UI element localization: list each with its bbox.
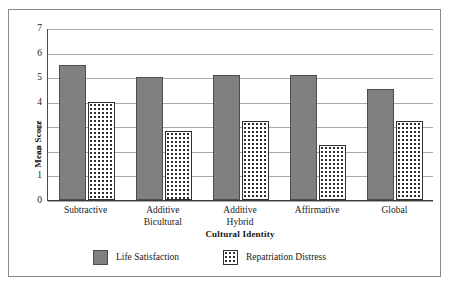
y-tick-label: 7 [37, 24, 42, 34]
chart-legend: Life SatisfactionRepatriation Distress [47, 248, 433, 268]
bar-repatriation-distress[interactable] [319, 145, 346, 200]
legend-label: Repatriation Distress [246, 252, 326, 262]
legend-label: Life Satisfaction [116, 252, 179, 262]
x-tick-label-line: Hybrid [201, 217, 278, 229]
x-tick-label-line: Bicultural [124, 217, 201, 229]
x-axis-title: Cultural Identity [47, 229, 433, 239]
x-tick-label-line: Global [356, 205, 433, 217]
legend-item[interactable]: Repatriation Distress [223, 248, 326, 266]
bars-layer [48, 29, 433, 200]
bar-life-satisfaction[interactable] [59, 65, 86, 200]
bar-group [202, 29, 279, 200]
x-tick-label: Subtractive [47, 205, 124, 217]
x-tick-label: Affirmative [279, 205, 356, 217]
x-tick-label: AdditiveBicultural [124, 205, 201, 228]
bar-repatriation-distress[interactable] [88, 102, 115, 200]
bar-repatriation-distress[interactable] [396, 121, 423, 200]
bar-group [125, 29, 202, 200]
bar-repatriation-distress[interactable] [242, 121, 269, 200]
y-tick-label: 4 [37, 98, 42, 108]
x-tick-label-line: Subtractive [47, 205, 124, 217]
figure-canvas: Mean Score 01234567 SubtractiveAdditiveB… [0, 0, 451, 288]
y-tick-label: 1 [37, 172, 42, 182]
bar-group [357, 29, 434, 200]
legend-item[interactable]: Life Satisfaction [93, 248, 179, 266]
legend-swatch-icon [93, 250, 108, 265]
y-tick-label: 5 [37, 73, 42, 83]
bar-life-satisfaction[interactable] [213, 75, 240, 200]
y-tick-label: 0 [37, 196, 42, 206]
plot-area: 01234567 [47, 29, 433, 201]
x-tick-label: Global [356, 205, 433, 217]
gridline [48, 201, 433, 202]
y-tick-label: 6 [37, 49, 42, 59]
bar-life-satisfaction[interactable] [136, 77, 163, 200]
x-tick-label-line: Additive [201, 205, 278, 217]
legend-swatch-icon [223, 250, 238, 265]
y-tick-label: 2 [37, 147, 42, 157]
x-tick-label-line: Affirmative [279, 205, 356, 217]
x-tick-label: AdditiveHybrid [201, 205, 278, 228]
y-tick-label: 3 [37, 123, 42, 133]
bar-life-satisfaction[interactable] [367, 89, 394, 200]
plot-wrapper: 01234567 [47, 29, 433, 201]
bar-group [280, 29, 357, 200]
bar-life-satisfaction[interactable] [290, 75, 317, 200]
bar-repatriation-distress[interactable] [165, 131, 192, 200]
x-tick-label-line: Additive [124, 205, 201, 217]
bar-group [48, 29, 125, 200]
